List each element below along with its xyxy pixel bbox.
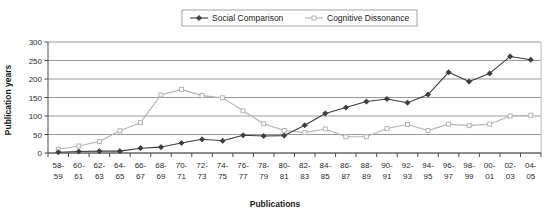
data-point-marker xyxy=(262,122,266,126)
line-chart: Social ComparisonCognitive Dissonance 05… xyxy=(0,0,550,214)
x-axis-tick-label: 85 xyxy=(321,172,330,181)
x-axis-tick-label: 73 xyxy=(198,172,207,181)
x-axis-tick-label: 72- xyxy=(196,161,208,170)
x-axis-tick-label: 92- xyxy=(402,161,414,170)
x-axis-tick-label: 03 xyxy=(506,172,515,181)
x-axis-tick-label: 02- xyxy=(504,161,516,170)
data-point-marker xyxy=(200,94,204,98)
x-axis-tick-label: 61 xyxy=(74,172,83,181)
x-axis-tick-label: 68- xyxy=(155,161,167,170)
x-axis-tick-label: 58- xyxy=(52,161,64,170)
data-point-marker xyxy=(138,121,142,125)
x-axis-tick-label: 59 xyxy=(54,172,63,181)
x-axis-tick-label: 75 xyxy=(218,172,227,181)
data-point-marker xyxy=(385,127,389,131)
x-axis-tick-label: 87 xyxy=(341,172,350,181)
x-axis-tick-label: 88- xyxy=(361,161,373,170)
x-axis-tick-label: 95 xyxy=(424,172,433,181)
x-axis-tick-label: 60- xyxy=(73,161,85,170)
x-axis-tick-label: 05 xyxy=(526,172,535,181)
x-axis-tick-label: 84- xyxy=(320,161,332,170)
x-axis-tick-label: 96- xyxy=(443,161,455,170)
data-point-marker xyxy=(488,122,492,126)
data-point-marker xyxy=(508,114,512,118)
chart-legend: Social ComparisonCognitive Dissonance xyxy=(182,10,417,26)
x-axis-tick-label: 79 xyxy=(259,172,268,181)
x-axis-tick-label: 64- xyxy=(114,161,126,170)
y-axis-tick-label: 250 xyxy=(29,57,43,66)
x-axis-tick-label: 93 xyxy=(403,172,412,181)
data-point-marker xyxy=(529,113,533,117)
data-point-marker xyxy=(118,129,122,133)
data-point-marker xyxy=(405,123,409,127)
data-point-marker xyxy=(344,135,348,139)
x-axis-tick-label: 74- xyxy=(217,161,229,170)
y-axis-tick-label: 300 xyxy=(29,38,43,47)
x-axis-tick-label: 77 xyxy=(239,172,248,181)
x-axis-tick-label: 01 xyxy=(485,172,494,181)
data-point-marker xyxy=(180,87,184,91)
data-point-marker xyxy=(426,128,430,132)
data-point-marker xyxy=(241,109,245,113)
data-point-marker xyxy=(312,16,316,20)
x-axis-tick-label: 97 xyxy=(444,172,453,181)
legend-item-label: Social Comparison xyxy=(212,13,284,23)
x-axis-tick-label: 76- xyxy=(237,161,249,170)
data-point-marker xyxy=(97,140,101,144)
y-axis-tick-label: 150 xyxy=(29,94,43,103)
x-axis-tick-label: 62- xyxy=(94,161,106,170)
x-axis-tick-label: 69 xyxy=(157,172,166,181)
x-axis-tick-label: 98- xyxy=(463,161,475,170)
x-axis-tick-label: 67 xyxy=(136,172,145,181)
x-axis-tick-label: 90- xyxy=(381,161,393,170)
y-axis-title: Publication years xyxy=(3,65,13,136)
y-axis-tick-label: 50 xyxy=(33,131,42,140)
x-axis-tick-label: 83 xyxy=(300,172,309,181)
chart-figure: Social ComparisonCognitive Dissonance 05… xyxy=(0,0,550,214)
x-axis-tick-label: 81 xyxy=(280,172,289,181)
y-axis-tick-label: 0 xyxy=(38,149,43,158)
data-point-marker xyxy=(323,127,327,131)
x-axis-tick-label: 80- xyxy=(278,161,290,170)
x-axis-tick-label: 91 xyxy=(382,172,391,181)
data-point-marker xyxy=(282,128,286,132)
data-point-marker xyxy=(159,93,163,97)
data-point-marker xyxy=(221,96,225,100)
y-axis-tick-label: 100 xyxy=(29,112,43,121)
data-point-marker xyxy=(467,124,471,128)
x-axis-tick-label: 65 xyxy=(115,172,124,181)
data-point-marker xyxy=(303,131,307,135)
data-point-marker xyxy=(77,144,81,148)
y-axis-tick-label: 200 xyxy=(29,75,43,84)
x-axis-tick-label: 00- xyxy=(484,161,496,170)
x-axis-tick-label: 66- xyxy=(135,161,147,170)
data-point-marker xyxy=(447,122,451,126)
x-axis-tick-label: 04- xyxy=(525,161,537,170)
x-axis-tick-label: 63 xyxy=(95,172,104,181)
x-axis-tick-label: 82- xyxy=(299,161,311,170)
legend-item-label: Cognitive Dissonance xyxy=(327,13,409,23)
x-axis-tick-label: 70- xyxy=(176,161,188,170)
x-axis-tick-label: 78- xyxy=(258,161,270,170)
chart-background xyxy=(0,0,550,214)
x-axis-tick-label: 99 xyxy=(465,172,474,181)
x-axis-tick-label: 86- xyxy=(340,161,352,170)
x-axis-tick-label: 89 xyxy=(362,172,371,181)
x-axis-tick-label: 94- xyxy=(422,161,434,170)
data-point-marker xyxy=(364,135,368,139)
x-axis-tick-label: 71 xyxy=(177,172,186,181)
x-axis-title: Publications xyxy=(250,199,301,209)
